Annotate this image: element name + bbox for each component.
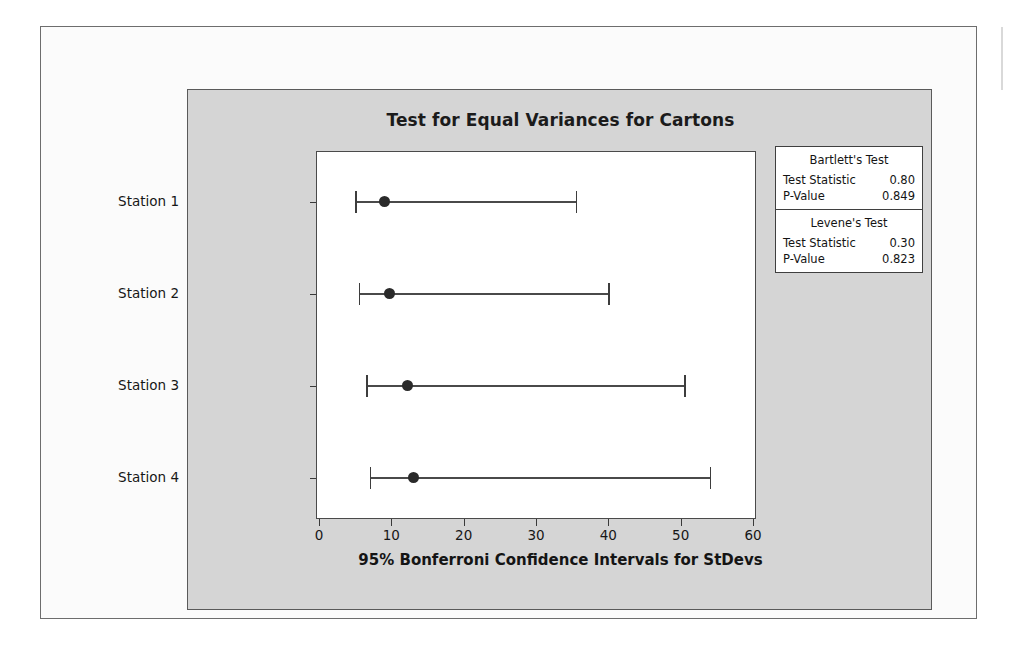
stats-row-value: 0.823 [882,252,915,266]
x-tick-label: 60 [744,527,761,543]
x-tick [536,519,537,526]
stats-row-value: 0.80 [889,173,915,187]
interval-line [359,293,609,295]
statistics-table: Bartlett's TestTest Statistic0.80P-Value… [775,146,923,273]
interval-center-point [384,288,395,299]
stats-heading: Bartlett's Test [776,151,922,172]
stats-row: P-Value0.823 [776,251,922,267]
stats-heading: Levene's Test [776,214,922,235]
chart-panel: Test for Equal Variances for Cartons Sta… [187,89,932,610]
interval-row [188,373,933,399]
x-tick [464,519,465,526]
interval-center-point [408,472,419,483]
stats-section-1: Bartlett's TestTest Statistic0.80P-Value… [776,147,922,209]
interval-row [188,465,933,491]
scan-artifact-mark [1001,27,1003,90]
outer-frame: Test for Equal Variances for Cartons Sta… [40,26,977,619]
interval-center-point [379,196,390,207]
stats-row-label: P-Value [783,189,825,203]
x-tick-label: 10 [383,527,400,543]
x-tick-label: 20 [455,527,472,543]
interval-cap-lower [370,467,372,489]
x-tick-label: 30 [527,527,544,543]
interval-center-point [402,380,413,391]
x-tick [391,519,392,526]
interval-cap-upper [576,191,578,213]
interval-cap-upper [608,283,610,305]
stats-row-value: 0.849 [882,189,915,203]
stats-row: Test Statistic0.80 [776,172,922,188]
x-tick-label: 50 [672,527,689,543]
stats-row-label: Test Statistic [783,236,856,250]
stats-row-label: P-Value [783,252,825,266]
stats-section-2: Levene's TestTest Statistic0.30P-Value0.… [776,209,922,272]
x-tick [753,519,754,526]
x-tick [681,519,682,526]
interval-cap-upper [684,375,686,397]
interval-cap-lower [366,375,368,397]
category-label-3: Station 3 [59,377,179,393]
stats-row: Test Statistic0.30 [776,235,922,251]
category-label-2: Station 2 [59,285,179,301]
x-tick [319,519,320,526]
interval-line [370,477,710,479]
x-axis-title: 95% Bonferroni Confidence Intervals for … [188,551,933,569]
interval-cap-lower [359,283,361,305]
x-tick [608,519,609,526]
interval-cap-lower [355,191,357,213]
stats-row-label: Test Statistic [783,173,856,187]
x-tick-label: 0 [315,527,324,543]
stats-row: P-Value0.849 [776,188,922,204]
interval-cap-upper [710,467,712,489]
category-label-4: Station 4 [59,469,179,485]
x-tick-label: 40 [600,527,617,543]
stats-row-value: 0.30 [889,236,915,250]
chart-title: Test for Equal Variances for Cartons [188,110,933,130]
interval-row [188,281,933,307]
interval-line [366,385,684,387]
category-label-1: Station 1 [59,193,179,209]
